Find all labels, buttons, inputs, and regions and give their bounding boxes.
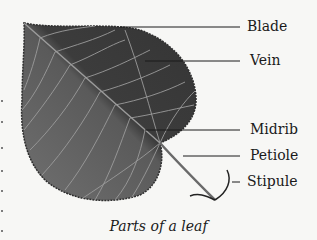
leaf-diagram: Blade Vein Midrib Petiole Stipule Parts … [0, 0, 317, 240]
label-vein: Vein [250, 53, 281, 67]
stipule-right [215, 170, 229, 200]
figure-caption: Parts of a leaf [0, 218, 317, 234]
leaf-blade [22, 23, 229, 200]
label-blade: Blade [247, 19, 287, 33]
margin-dot [1, 121, 3, 123]
petiole-stem [160, 143, 215, 200]
margin-dot [1, 100, 3, 102]
margin-dot [1, 210, 3, 212]
label-stipule: Stipule [247, 174, 297, 188]
margin-dot [1, 190, 3, 192]
margin-dot [1, 170, 3, 172]
label-midrib: Midrib [250, 122, 298, 136]
margin-dot [1, 147, 3, 149]
leaf-illustration [0, 0, 317, 240]
label-petiole: Petiole [250, 148, 298, 162]
margin-dot [1, 230, 3, 232]
